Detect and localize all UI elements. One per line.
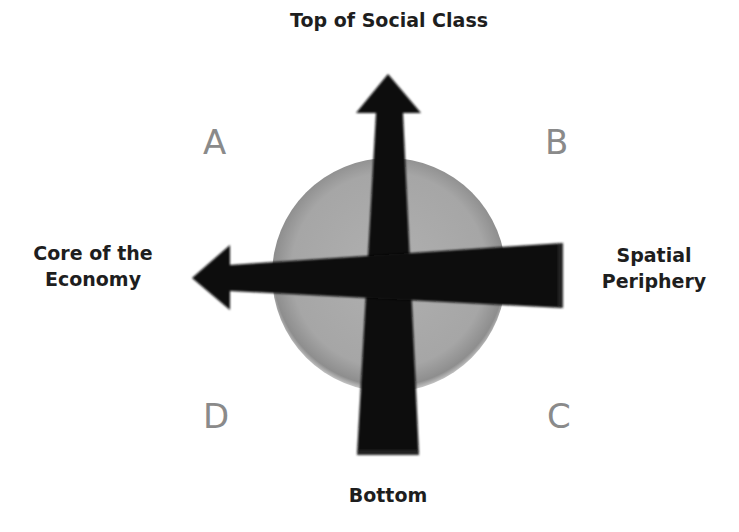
axis-label-right-line2: Periphery [584, 268, 724, 294]
quadrant-label-d: D [203, 396, 229, 436]
axis-label-right-line1: Spatial [584, 242, 724, 268]
quadrant-label-a: A [203, 122, 226, 162]
axis-label-bottom: Bottom [338, 482, 438, 508]
axis-label-right: Spatial Periphery [584, 242, 724, 294]
axis-label-top: Top of Social Class [278, 7, 500, 33]
social-spatial-diagram: Top of Social Class Bottom Core of the E… [0, 0, 739, 532]
axis-label-left-line1: Core of the [8, 240, 178, 266]
quadrant-label-b: B [545, 122, 568, 162]
axis-label-left-line2: Economy [8, 266, 178, 292]
axis-label-left: Core of the Economy [8, 240, 178, 292]
quadrant-label-c: C [547, 396, 571, 436]
